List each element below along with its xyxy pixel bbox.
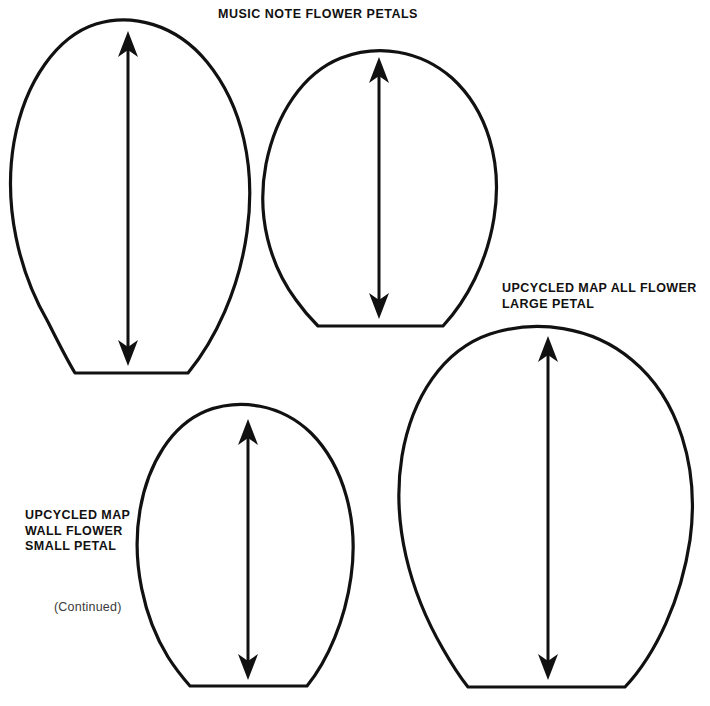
petal-outline-all-flower-large [399,327,693,687]
pattern-sheet: MUSIC NOTE FLOWER PETALS UPCYCLED MAP AL… [0,0,710,706]
label-upcycled-map-all-flower-large-petal: UPCYCLED MAP ALL FLOWER LARGE PETAL [502,281,697,312]
grain-arrow-petal-2 [369,57,389,319]
grain-arrow-petal-3 [238,419,258,680]
petal-outline-wall-flower-small [137,404,353,686]
page-title: MUSIC NOTE FLOWER PETALS [218,7,418,23]
continued-note: (Continued) [54,600,122,615]
grain-arrow-petal-4 [538,336,558,680]
petal-outline-music-note-tall [11,20,250,373]
grain-arrow-petal-1 [118,31,138,366]
label-upcycled-map-wall-flower-small-petal: UPCYCLED MAP WALL FLOWER SMALL PETAL [25,508,130,555]
